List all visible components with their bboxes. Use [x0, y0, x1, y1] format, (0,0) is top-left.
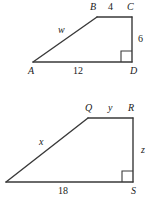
vertex-label-Q: Q [85, 103, 92, 113]
side-label-x: x [39, 137, 43, 147]
vertex-label-A: A [28, 66, 34, 76]
vertex-label-B: B [90, 2, 96, 12]
side-label-ps-18: 18 [58, 186, 68, 196]
side-label-w: w [58, 25, 65, 35]
vertex-label-S: S [131, 186, 136, 196]
right-angle-mark-D [121, 51, 132, 62]
side-label-rs-z: z [141, 145, 145, 155]
right-angle-mark-S [122, 171, 133, 182]
geometry-canvas [0, 0, 158, 216]
side-label-cd-6: 6 [138, 34, 143, 44]
side-label-qr-y: y [108, 103, 112, 113]
trapezoid-PQRS-shape [6, 118, 133, 182]
segment-AB [33, 17, 97, 62]
trapezoid-ABCD-shape [33, 17, 132, 62]
geometry-figure: A B C D w 4 6 12 Q R S x y z 18 [0, 0, 158, 216]
vertex-label-R: R [128, 103, 134, 113]
vertex-label-D: D [130, 66, 137, 76]
side-label-bc-4: 4 [108, 2, 113, 12]
vertex-label-C: C [127, 2, 134, 12]
side-label-ad-12: 12 [73, 66, 83, 76]
segment-PQ [6, 118, 88, 182]
